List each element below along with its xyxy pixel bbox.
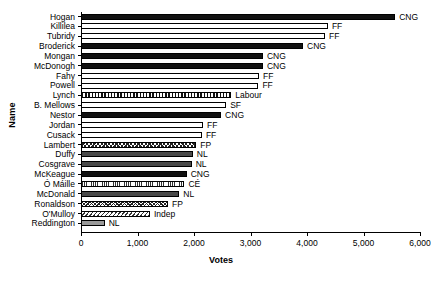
- category-label: Hogan: [0, 12, 75, 22]
- bar-mongan: [81, 53, 263, 59]
- table-row: TubridyFF: [0, 32, 442, 42]
- x-axis-tick-label: 4,000: [277, 238, 337, 248]
- bar-fahy: [81, 73, 259, 79]
- bar-party-label: NL: [109, 218, 120, 228]
- category-label: Lambert: [0, 140, 75, 150]
- bar-party-label: FF: [262, 80, 272, 90]
- x-axis-tick-label: 2,000: [164, 238, 224, 248]
- bar-party-label: Indep: [154, 209, 175, 219]
- bar-party-label: FF: [263, 71, 273, 81]
- category-label: McKeague: [0, 169, 75, 179]
- bar-party-label: CNG: [399, 12, 418, 22]
- category-label: Fahy: [0, 71, 75, 81]
- table-row: Ó MáilleCÉ: [0, 179, 442, 189]
- x-axis-tick: [251, 232, 252, 236]
- category-label: Broderick: [0, 41, 75, 51]
- table-row: ReddingtonNL: [0, 219, 442, 229]
- bar-party-label: CNG: [225, 110, 244, 120]
- table-row: RonaldsonFP: [0, 199, 442, 209]
- x-axis-tick-label: 6,000: [390, 238, 442, 248]
- bar-nestor: [81, 112, 221, 118]
- bar-duffy: [81, 151, 193, 157]
- bar-lambert: [81, 142, 196, 148]
- bar-party-label: NL: [197, 149, 208, 159]
- bar-powell: [81, 83, 258, 89]
- table-row: CusackFF: [0, 130, 442, 140]
- bar-mckeague: [81, 171, 187, 177]
- x-axis-title: Votes: [0, 255, 442, 265]
- bar-tubridy: [81, 33, 325, 39]
- category-label: Cosgrave: [0, 159, 75, 169]
- bar-mcdonald: [81, 191, 179, 197]
- bar-broderick: [81, 43, 303, 49]
- category-label: Tubridy: [0, 31, 75, 41]
- bar-party-label: CNG: [267, 51, 286, 61]
- x-axis-tick: [81, 232, 82, 236]
- category-label: Cusack: [0, 130, 75, 140]
- bar-cosgrave: [81, 161, 192, 167]
- table-row: B. MellowsSF: [0, 101, 442, 111]
- votes-bar-chart: Name HoganCNGKillileaFFTubridyFFBroderic…: [0, 0, 442, 282]
- bar-party-label: FP: [172, 199, 183, 209]
- x-axis-tick: [364, 232, 365, 236]
- x-axis-tick: [420, 232, 421, 236]
- bar-mcdonogh: [81, 63, 263, 69]
- category-label: Lynch: [0, 90, 75, 100]
- bar-party-label: Labour: [235, 90, 261, 100]
- bar-reddington: [81, 220, 105, 226]
- bar-party-label: CNG: [267, 61, 286, 71]
- bar-b-mellows: [81, 102, 226, 108]
- category-label: Mongan: [0, 51, 75, 61]
- bar-party-label: SF: [230, 100, 241, 110]
- category-label: Powell: [0, 80, 75, 90]
- bar-party-label: NL: [183, 189, 194, 199]
- table-row: PowellFF: [0, 81, 442, 91]
- table-row: DuffyNL: [0, 150, 442, 160]
- x-axis-tick: [194, 232, 195, 236]
- category-label: Reddington: [0, 218, 75, 228]
- bar-killilea: [81, 23, 328, 29]
- bar-party-label: CNG: [191, 169, 210, 179]
- bar-party-label: NL: [196, 159, 207, 169]
- bar-o-mulloy: [81, 211, 150, 217]
- bar-hogan: [81, 14, 395, 20]
- bar-lynch: [81, 92, 231, 98]
- bar-party-label: FF: [207, 120, 217, 130]
- category-label: Jordan: [0, 120, 75, 130]
- bar-party-label: FF: [332, 21, 342, 31]
- category-label: O'Mulloy: [0, 209, 75, 219]
- bar-party-label: FF: [206, 130, 216, 140]
- category-label: Ronaldson: [0, 199, 75, 209]
- x-axis-tick-label: 0: [51, 238, 111, 248]
- category-label: B. Mellows: [0, 100, 75, 110]
- bar-ronaldson: [81, 201, 168, 207]
- category-label: McDonogh: [0, 61, 75, 71]
- category-label: Nestor: [0, 110, 75, 120]
- bar-party-label: FF: [329, 31, 339, 41]
- category-label: Ó Máille: [0, 179, 75, 189]
- x-axis-tick-label: 3,000: [221, 238, 281, 248]
- bar-jordan: [81, 122, 203, 128]
- x-axis-tick: [138, 232, 139, 236]
- bar-cusack: [81, 132, 202, 138]
- x-axis-tick-label: 5,000: [334, 238, 394, 248]
- bar-m-ille: [81, 181, 184, 187]
- table-row: MonganCNG: [0, 51, 442, 61]
- bar-party-label: FP: [200, 140, 211, 150]
- bar-party-label: CÉ: [188, 179, 200, 189]
- x-axis-tick: [307, 232, 308, 236]
- category-label: Duffy: [0, 149, 75, 159]
- category-label: McDonald: [0, 189, 75, 199]
- category-label: Killilea: [0, 21, 75, 31]
- bar-party-label: CNG: [307, 41, 326, 51]
- x-axis-tick-label: 1,000: [108, 238, 168, 248]
